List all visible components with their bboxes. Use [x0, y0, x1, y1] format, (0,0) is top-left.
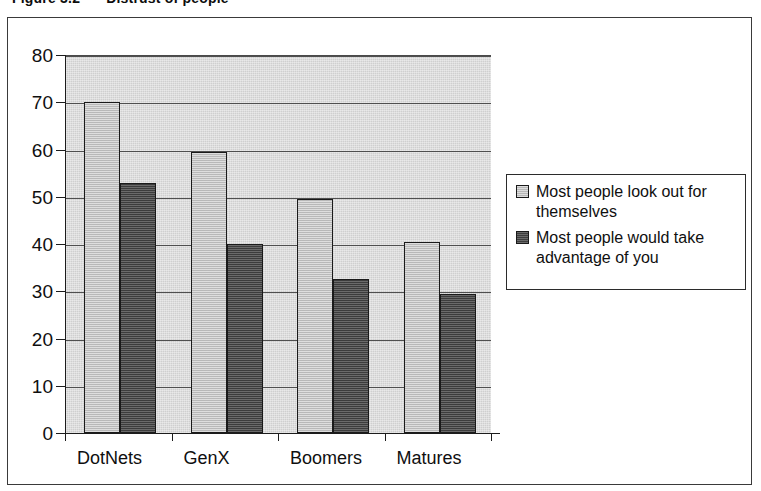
legend-label: Most people would take advantage of you	[536, 228, 737, 267]
bar-boomers-series-0	[297, 199, 333, 433]
bar-dotnets-series-0	[84, 102, 120, 433]
x-axis-tick-label-matures: Matures	[397, 449, 462, 467]
y-axis-tick-label: 60	[11, 141, 53, 160]
bar-matures-series-1	[440, 294, 476, 433]
x-axis-tick-label-boomers: Boomers	[290, 449, 362, 467]
legend-label: Most people look out for themselves	[536, 182, 737, 221]
x-axis-tick-label-dotnets: DotNets	[77, 449, 142, 467]
legend-swatch-icon	[516, 231, 529, 244]
y-axis-tick	[56, 197, 65, 198]
x-axis-tick	[491, 433, 492, 441]
y-axis-tick	[56, 386, 65, 387]
bar-boomers-series-1	[333, 279, 369, 433]
y-axis-tick	[56, 291, 65, 292]
figure-caption: Figure 3.2Distrust of people	[12, 0, 229, 6]
y-axis-tick-label: 0	[11, 424, 53, 443]
y-axis-tick	[56, 339, 65, 340]
y-axis-tick-label: 10	[11, 377, 53, 396]
bar-genx-series-1	[227, 244, 263, 433]
x-axis-tick	[385, 433, 386, 441]
legend-entry-1: Most people would take advantage of you	[516, 228, 737, 267]
plot-area	[65, 55, 491, 433]
x-axis-tick-label-genx: GenX	[184, 449, 230, 467]
bar-dotnets-series-1	[120, 183, 156, 433]
y-axis-tick-label: 80	[11, 46, 53, 65]
y-axis-tick-label: 20	[11, 330, 53, 349]
y-axis-tick-label: 50	[11, 188, 53, 207]
bar-matures-series-0	[404, 242, 440, 433]
gridline	[66, 103, 491, 104]
y-axis-tick	[56, 102, 65, 103]
figure-title: Distrust of people	[106, 0, 229, 6]
y-axis-tick-labels: 01020304050607080	[8, 18, 53, 486]
y-axis-tick-label: 30	[11, 282, 53, 301]
legend-entry-0: Most people look out for themselves	[516, 182, 737, 221]
y-axis-tick	[56, 55, 65, 56]
y-axis-tick-label: 70	[11, 93, 53, 112]
gridline	[66, 56, 491, 57]
x-axis-tick	[278, 433, 279, 441]
legend: Most people look out for themselvesMost …	[506, 174, 746, 290]
figure-number: Figure 3.2	[12, 0, 80, 6]
x-axis-tick	[65, 433, 66, 441]
y-axis-tick	[56, 150, 65, 151]
gridline	[66, 151, 491, 152]
y-axis-line	[65, 55, 66, 434]
chart-frame: 01020304050607080 DotNetsGenXBoomersMatu…	[7, 17, 752, 485]
bar-genx-series-0	[191, 152, 227, 433]
y-axis-tick-label: 40	[11, 235, 53, 254]
x-axis-tick	[172, 433, 173, 441]
legend-swatch-icon	[516, 185, 529, 198]
y-axis-tick	[56, 433, 65, 434]
y-axis-tick	[56, 244, 65, 245]
